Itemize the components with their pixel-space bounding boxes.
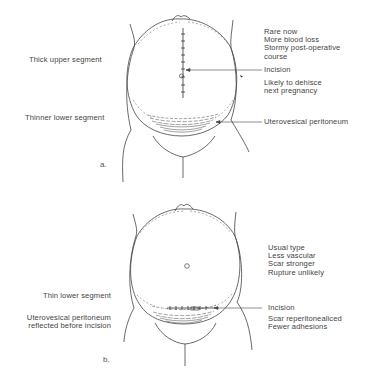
label-incision-a: Incision: [264, 66, 291, 74]
figure-b-sublabel: b.: [103, 355, 110, 364]
label-incision-b: Incision: [268, 304, 295, 312]
label-line: reflected before incision: [27, 322, 111, 330]
figure-b-drawing: [0, 190, 377, 382]
label-thick-upper-segment: Thick upper segment: [29, 56, 102, 64]
umbilicus-icon: [185, 264, 190, 269]
note-line: Fewer adhesions: [268, 323, 342, 331]
label-thinner-lower-segment: Thinner lower segment: [25, 114, 104, 122]
notes-classical-incision: Rare now More blood loss Stormy post-ope…: [264, 28, 340, 61]
notes-incision-a: Likely to dehisce next pregnancy: [264, 79, 322, 95]
label-thin-lower-segment: Thin lower segment: [43, 292, 111, 300]
note-line: next pregnancy: [264, 87, 322, 95]
label-uterovesical-peritoneum-b: Uterovesical peritoneum reflected before…: [27, 314, 111, 330]
notes-lower-segment-incision: Usual type Less vascular Scar stronger R…: [268, 244, 324, 277]
notes-incision-b: Scar reperitonealiced Fewer adhesions: [268, 315, 342, 331]
note-line: Rupture unlikely: [268, 269, 324, 277]
label-uterovesical-peritoneum-a: Uterovesical peritoneum: [264, 118, 348, 126]
note-line: course: [264, 53, 340, 61]
figure-a-sublabel: a.: [100, 160, 107, 169]
